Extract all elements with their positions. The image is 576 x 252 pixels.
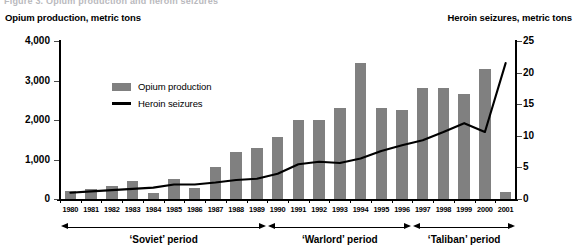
left-axis-title: Opium production, metric tons bbox=[5, 12, 141, 23]
x-tick-1980 bbox=[60, 200, 61, 203]
right-tick-label-0: 0 bbox=[523, 194, 529, 204]
year-label-2001: 2001 bbox=[494, 205, 518, 214]
left-tick-label-3000: 3,000 bbox=[0, 76, 50, 86]
left-tick-0 bbox=[54, 199, 59, 200]
right-tick-label-15: 15 bbox=[523, 99, 534, 109]
period-label-2: ‘Taliban’ period bbox=[413, 234, 515, 245]
band-rule bbox=[67, 227, 260, 228]
right-tick-label-25: 25 bbox=[523, 36, 534, 46]
x-tick-1981 bbox=[81, 200, 82, 203]
legend-line-swatch-icon bbox=[112, 102, 131, 104]
band-rule bbox=[274, 227, 405, 228]
period-label-1: ‘Warlord’ period bbox=[268, 234, 411, 245]
right-tick-5 bbox=[517, 167, 522, 168]
x-tick-1995 bbox=[371, 200, 372, 203]
chart-legend: Opium production Heroin seizures bbox=[112, 80, 211, 114]
x-tick-1988 bbox=[226, 200, 227, 203]
x-tick-1982 bbox=[101, 200, 102, 203]
legend-item-opium-production: Opium production bbox=[112, 80, 211, 93]
x-tick-1986 bbox=[184, 200, 185, 203]
left-tick-1000 bbox=[54, 160, 59, 161]
period-label-0: ‘Soviet’ period bbox=[61, 234, 266, 245]
legend-label-heroin-seizures: Heroin seizures bbox=[138, 98, 203, 109]
x-tick-1999 bbox=[454, 200, 455, 203]
right-tick-0 bbox=[517, 199, 522, 200]
period-band-1 bbox=[268, 222, 411, 232]
right-axis-title: Heroin seizures, metric tons bbox=[448, 12, 572, 23]
x-tick-1987 bbox=[205, 200, 206, 203]
cutoff-header-text: Figure 3. Opium production and heroin se… bbox=[4, 0, 218, 6]
band-arrow-right-icon bbox=[404, 223, 411, 229]
x-tick-1983 bbox=[122, 200, 123, 203]
right-tick-label-10: 10 bbox=[523, 131, 534, 141]
right-tick-label-20: 20 bbox=[523, 68, 534, 78]
left-tick-3000 bbox=[54, 81, 59, 82]
legend-label-opium-production: Opium production bbox=[138, 81, 211, 92]
right-tick-25 bbox=[517, 41, 522, 42]
plot-area bbox=[60, 41, 516, 199]
x-tick-1990 bbox=[267, 200, 268, 203]
x-tick-1996 bbox=[392, 200, 393, 203]
right-tick-15 bbox=[517, 104, 522, 105]
x-tick-1997 bbox=[412, 200, 413, 203]
period-band-2 bbox=[413, 222, 515, 232]
left-tick-label-2000: 2,000 bbox=[0, 115, 50, 125]
x-tick-1992 bbox=[309, 200, 310, 203]
right-tick-20 bbox=[517, 73, 522, 74]
period-band-0 bbox=[61, 222, 266, 232]
x-tick-1998 bbox=[433, 200, 434, 203]
x-tick-1989 bbox=[247, 200, 248, 203]
heroin-seizures-line bbox=[60, 41, 516, 199]
chart-figure: Figure 3. Opium production and heroin se… bbox=[0, 0, 576, 252]
left-tick-label-4000: 4,000 bbox=[0, 36, 50, 46]
x-tick-1984 bbox=[143, 200, 144, 203]
legend-item-heroin-seizures: Heroin seizures bbox=[112, 97, 211, 110]
x-tick-2001 bbox=[495, 200, 496, 203]
left-tick-label-1000: 1,000 bbox=[0, 155, 50, 165]
band-arrow-right-icon bbox=[259, 223, 266, 229]
left-tick-2000 bbox=[54, 120, 59, 121]
right-tick-label-5: 5 bbox=[523, 162, 529, 172]
legend-bar-swatch-icon bbox=[112, 83, 131, 91]
x-tick-1994 bbox=[350, 200, 351, 203]
left-tick-label-0: 0 bbox=[0, 194, 50, 204]
x-tick-1993 bbox=[329, 200, 330, 203]
left-tick-4000 bbox=[54, 41, 59, 42]
x-tick-1985 bbox=[164, 200, 165, 203]
band-rule bbox=[419, 227, 509, 228]
x-tick-1991 bbox=[288, 200, 289, 203]
cutoff-header-strip: Figure 3. Opium production and heroin se… bbox=[0, 0, 576, 7]
band-arrow-right-icon bbox=[508, 223, 515, 229]
x-tick-2000 bbox=[475, 200, 476, 203]
right-tick-10 bbox=[517, 136, 522, 137]
